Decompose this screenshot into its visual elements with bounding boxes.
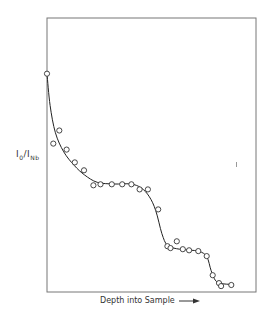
x-axis-label: Depth into Sample <box>100 296 201 305</box>
x-axis-label-text: Depth into Sample <box>100 296 175 305</box>
data-point-marker <box>168 246 173 251</box>
y-axis-label: I0/INb <box>16 149 39 161</box>
data-point-marker <box>196 249 201 254</box>
data-point-marker <box>137 187 142 192</box>
fit-curve <box>47 74 231 285</box>
data-point-marker <box>120 182 125 187</box>
data-point-marker <box>64 147 69 152</box>
arrow-right-icon <box>179 298 201 304</box>
data-point-marker <box>109 182 114 187</box>
data-point-marker <box>44 71 49 76</box>
data-point-marker <box>129 182 134 187</box>
data-point-marker <box>174 239 179 244</box>
chart-canvas <box>0 0 271 315</box>
data-point-marker <box>57 128 62 133</box>
data-point-marker <box>210 273 215 278</box>
data-point-marker <box>180 247 185 252</box>
data-point-marker <box>98 182 103 187</box>
data-point-marker <box>51 141 56 146</box>
data-point-marker <box>219 284 224 289</box>
stray-mark <box>236 162 237 167</box>
data-point-marker <box>187 248 192 253</box>
data-point-marker <box>91 183 96 188</box>
plot-frame <box>47 18 256 292</box>
data-point-marker <box>81 168 86 173</box>
data-point-marker <box>156 207 161 212</box>
data-point-marker <box>229 282 234 287</box>
data-points <box>44 71 234 289</box>
data-point-marker <box>72 160 77 165</box>
data-point-marker <box>145 187 150 192</box>
data-point-marker <box>204 254 209 259</box>
